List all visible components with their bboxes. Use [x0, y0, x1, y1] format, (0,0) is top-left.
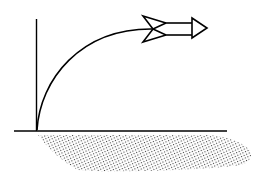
trajectory-curve	[37, 29, 153, 130]
rocket-top-fin	[143, 16, 166, 29]
rocket-trajectory-diagram	[0, 0, 258, 182]
rocket-body-bottom-inner	[153, 29, 166, 35]
ground-soil	[38, 135, 251, 171]
rocket-bottom-fin	[143, 29, 166, 42]
rocket-nose-cone	[192, 18, 207, 38]
rocket-body-top	[153, 23, 166, 29]
rocket-icon	[143, 16, 207, 42]
